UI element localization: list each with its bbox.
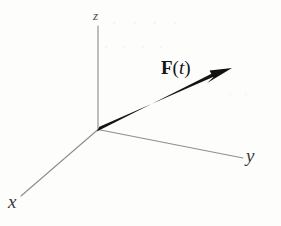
- force-vector-shaft: [97, 73, 214, 131]
- force-vector-label: F(t): [161, 58, 191, 77]
- coordinate-axes-canvas: [0, 0, 281, 226]
- y-axis-line: [98, 130, 243, 159]
- x-axis-line: [21, 130, 98, 197]
- force-vector-symbol: F: [161, 57, 173, 78]
- x-axis-label: x: [8, 192, 16, 211]
- y-axis-label: y: [246, 146, 254, 165]
- z-axis-label: z: [93, 9, 98, 22]
- force-vector-figure: · · · · · · · · · · z y x F(t): [0, 0, 281, 226]
- force-label-paren-close: ): [184, 57, 190, 78]
